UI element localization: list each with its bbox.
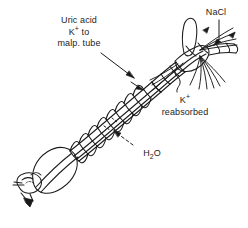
insect-gut-diagram: Uric acid K+ to malp. tube NaCl K+ reabs… <box>0 0 248 228</box>
tubule-knot-2 <box>203 27 209 33</box>
water-leader <box>114 131 133 145</box>
label-uric-acid-line2-rest: to <box>79 27 89 37</box>
label-nacl: NaCl <box>196 7 236 19</box>
label-uric-acid-line1: Uric acid <box>36 15 122 27</box>
head-structure <box>13 173 41 201</box>
uric-acid-leader <box>101 53 134 78</box>
tubule-knot <box>229 32 235 38</box>
label-water: H2O <box>134 148 170 160</box>
label-water-h: H <box>143 148 150 158</box>
label-k-reabsorbed: K+ reabsorbed <box>150 95 220 118</box>
label-uric-acid: Uric acid K+ to malp. tube <box>36 15 122 50</box>
label-k-reabsorbed-line2: reabsorbed <box>150 107 220 119</box>
ileum <box>207 43 238 55</box>
label-water-o: O <box>154 148 161 158</box>
mandible-tip <box>24 198 33 207</box>
malpighian-tubules <box>150 28 237 90</box>
label-water-formula: H2O <box>134 148 170 160</box>
crop-bulb <box>33 147 78 193</box>
label-k-charge: + <box>186 93 190 100</box>
label-uric-acid-line2: K+ to <box>36 27 122 39</box>
label-nacl-text: NaCl <box>196 7 236 19</box>
label-k-reabsorbed-line1: K+ <box>150 95 220 107</box>
label-uric-acid-line3: malp. tube <box>36 38 122 50</box>
